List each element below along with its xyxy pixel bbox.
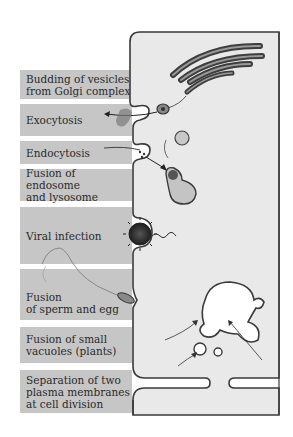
cell-illustration <box>0 0 293 437</box>
plasma-membrane <box>130 32 279 415</box>
endosome-icon <box>175 131 189 145</box>
sperm-icon <box>42 248 136 305</box>
small-vacuole-icon <box>214 348 222 356</box>
